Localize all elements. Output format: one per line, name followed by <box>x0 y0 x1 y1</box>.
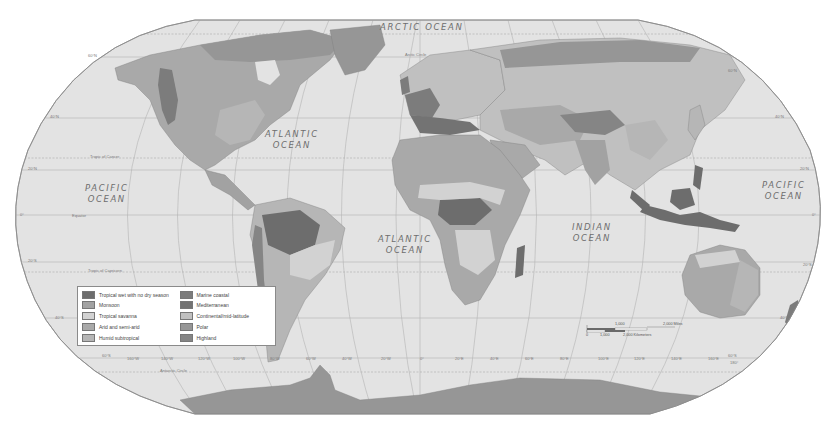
label-lat-60s-east: 60°S <box>728 353 737 358</box>
label-indian-ocean: INDIAN OCEAN <box>572 222 612 244</box>
legend-label: Humid subtropical <box>99 335 139 341</box>
legend-label: Highland <box>197 335 217 341</box>
label-lat-0-east: 0° <box>812 212 816 217</box>
legend-label: Polar <box>197 324 209 330</box>
label-lat-60s-west: 60°S <box>102 353 111 358</box>
scale-bar: 1,000 2,000 Miles 0 1,000 2,000 Kilomete… <box>585 322 685 342</box>
legend-swatch <box>180 323 193 331</box>
legend-label: Continental/mid-latitude <box>197 313 250 319</box>
label-lat-40n-west: 40°N <box>50 114 59 119</box>
label-lon: 80°W <box>270 356 280 361</box>
label-line: OCEAN <box>762 191 806 202</box>
label-lon: 100°E <box>598 356 609 361</box>
label-lon: 120°W <box>198 356 210 361</box>
label-lat-40s-east: 40°S <box>780 315 789 320</box>
legend-item-marine-coastal: Marine coastal <box>180 290 272 299</box>
legend-swatch <box>180 301 193 309</box>
label-pacific-ocean-east: PACIFIC OCEAN <box>762 180 806 202</box>
label-lon: 160°E <box>708 356 719 361</box>
label-lon: 20°E <box>455 356 464 361</box>
label-lat-40n-east: 40°N <box>775 114 784 119</box>
label-lon: 140°E <box>671 356 682 361</box>
legend-swatch <box>82 291 95 299</box>
label-lat-60n-west: 60°N <box>88 53 97 58</box>
legend-label: Tropical savanna <box>99 313 137 319</box>
legend-label: Tropical wet with no dry season <box>99 292 169 298</box>
label-line: ATLANTIC <box>378 234 432 245</box>
label-lat-60n-east: 60°N <box>728 68 737 73</box>
legend-label: Marine coastal <box>197 292 230 298</box>
label-arctic-circle: Arctic Circle <box>405 52 426 57</box>
label-lon: 60°W <box>306 356 316 361</box>
label-lon: 40°E <box>490 356 499 361</box>
legend-column-right: Marine coastal Mediterranean Continental… <box>180 290 272 342</box>
legend-item-humid-subtropical: Humid subtropical <box>82 333 174 342</box>
legend-label: Monsoon <box>99 302 120 308</box>
legend-swatch <box>180 312 193 320</box>
legend-item-arid: Arid and semi-arid <box>82 322 174 331</box>
scale-km-mid: 1,000 <box>600 333 610 337</box>
label-line: PACIFIC <box>762 180 806 191</box>
legend-item-tropical-wet: Tropical wet with no dry season <box>82 290 174 299</box>
label-lat-20s-west: 20°S <box>28 258 37 263</box>
legend-item-polar: Polar <box>180 322 272 331</box>
scale-miles-mid: 1,000 <box>615 322 625 326</box>
label-lat-40s-west: 40°S <box>55 315 64 320</box>
label-lon: 120°E <box>634 356 645 361</box>
legend-label: Mediterranean <box>197 302 229 308</box>
world-climate-map <box>0 0 831 431</box>
label-lon: 0° <box>420 356 424 361</box>
legend-swatch <box>82 323 95 331</box>
label-lon: 160°W <box>127 356 139 361</box>
label-line: ATLANTIC <box>265 129 319 140</box>
scale-km-end: 2,000 Kilometers <box>623 333 652 337</box>
label-lon: 40°W <box>342 356 352 361</box>
label-lon: 80°E <box>560 356 569 361</box>
label-arctic-ocean: ARCTIC OCEAN <box>380 22 463 33</box>
legend-item-mediterranean: Mediterranean <box>180 301 272 310</box>
label-lon: 20°W <box>381 356 391 361</box>
label-lon: 100°W <box>233 356 245 361</box>
legend-swatch <box>82 334 95 342</box>
label-line: OCEAN <box>85 194 129 205</box>
label-lon: 180° <box>730 360 738 365</box>
legend-item-monsoon: Monsoon <box>82 301 174 310</box>
legend-swatch <box>180 334 193 342</box>
label-tropic-of-capricorn: Tropic of Capricorn <box>88 268 122 273</box>
label-equator: Equator <box>72 213 86 218</box>
legend-swatch <box>82 301 95 309</box>
label-atlantic-ocean-north: ATLANTIC OCEAN <box>265 129 319 151</box>
label-line: OCEAN <box>378 245 432 256</box>
label-pacific-ocean-west: PACIFIC OCEAN <box>85 183 129 205</box>
legend-swatch <box>180 291 193 299</box>
label-line: INDIAN <box>572 222 612 233</box>
label-lon: 60°E <box>525 356 534 361</box>
label-atlantic-ocean-south: ATLANTIC OCEAN <box>378 234 432 256</box>
label-lat-20n-west: 20°N <box>28 166 37 171</box>
legend-item-highland: Highland <box>180 333 272 342</box>
label-antarctic-circle: Antarctic Circle <box>160 368 187 373</box>
label-lon: 140°W <box>161 356 173 361</box>
legend-swatch <box>82 312 95 320</box>
scale-km-zero: 0 <box>586 333 588 337</box>
label-line: OCEAN <box>572 233 612 244</box>
label-lat-20s-east: 20°S <box>803 262 812 267</box>
legend-item-tropical-savanna: Tropical savanna <box>82 312 174 321</box>
label-line: OCEAN <box>265 140 319 151</box>
climate-legend: Tropical wet with no dry season Monsoon … <box>77 286 276 346</box>
legend-item-continental: Continental/mid-latitude <box>180 312 272 321</box>
label-lat-20n-east: 20°N <box>800 166 809 171</box>
label-lat-0-west: 0° <box>20 212 24 217</box>
label-line: PACIFIC <box>85 183 129 194</box>
label-tropic-of-cancer: Tropic of Cancer <box>90 154 119 159</box>
legend-column-left: Tropical wet with no dry season Monsoon … <box>82 290 174 342</box>
scale-miles-end: 2,000 Miles <box>663 322 682 326</box>
legend-label: Arid and semi-arid <box>99 324 140 330</box>
